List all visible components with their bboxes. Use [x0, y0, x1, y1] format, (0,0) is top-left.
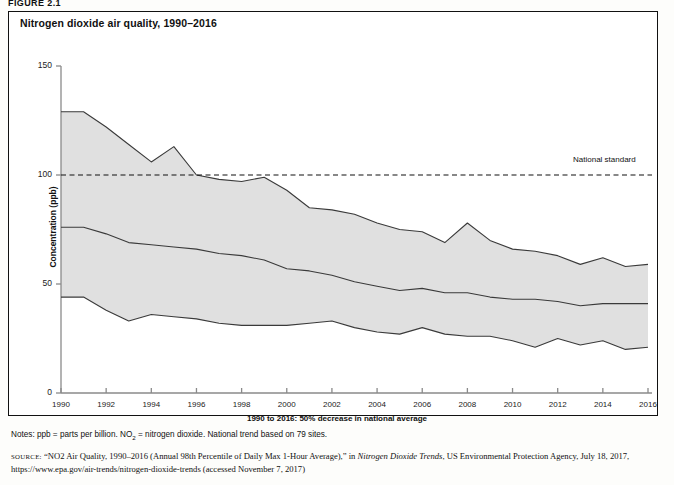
y-tick-label: 100	[28, 169, 52, 179]
x-tick-label: 2002	[312, 400, 352, 409]
x-tick-label: 1992	[86, 400, 126, 409]
y-tick-label: 0	[28, 387, 52, 397]
x-axis-caption: 1990 to 2016: 50% decrease in national a…	[0, 414, 674, 423]
x-tick-label: 2010	[493, 400, 533, 409]
x-tick-label: 2006	[402, 400, 442, 409]
x-tick-label: 2008	[447, 400, 487, 409]
notes-suffix: = nitrogen dioxide. National trend based…	[136, 430, 327, 439]
y-tick-label: 150	[28, 60, 52, 70]
x-tick-label: 2016	[628, 400, 668, 409]
source-text: SOURCE: “NO2 Air Quality, 1990–2016 (Ann…	[11, 450, 663, 476]
chart-frame	[8, 37, 658, 416]
y-axis-title: Concentration (ppb)	[48, 167, 58, 287]
source-italic-title: Nitrogen Dioxide Trends	[358, 451, 443, 461]
source-tag: SOURCE:	[11, 453, 42, 460]
x-tick-label: 2004	[357, 400, 397, 409]
x-tick-label: 1996	[176, 400, 216, 409]
x-tick-label: 1998	[222, 400, 262, 409]
x-tick-label: 2014	[583, 400, 623, 409]
x-tick-label: 2012	[538, 400, 578, 409]
notes-prefix: Notes: ppb = parts per billion. NO	[11, 430, 132, 439]
page-title: Nitrogen dioxide air quality, 1990–2016	[20, 17, 217, 29]
x-tick-label: 1994	[131, 400, 171, 409]
national-standard-label: National standard	[573, 155, 636, 164]
source-part1: “NO2 Air Quality, 1990–2016 (Annual 98th…	[44, 451, 358, 461]
y-tick-label: 50	[28, 278, 52, 288]
figure-label: FIGURE 2.1	[8, 0, 61, 8]
x-tick-label: 2000	[267, 400, 307, 409]
x-tick-label: 1990	[41, 400, 81, 409]
notes-text: Notes: ppb = parts per billion. NO2 = ni…	[11, 430, 327, 441]
